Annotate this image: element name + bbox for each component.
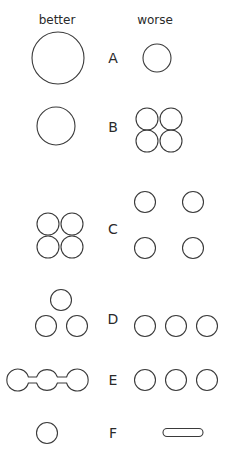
row-b: B	[37, 107, 182, 152]
row-label-d: D	[108, 311, 119, 327]
better-c-circle	[37, 236, 59, 258]
worse-c-circle	[183, 238, 204, 259]
row-label-a: A	[108, 50, 118, 66]
row-d: D	[36, 290, 218, 337]
row-label-e: E	[109, 372, 118, 388]
row-label-b: B	[108, 119, 118, 135]
worse-b-circle	[136, 130, 158, 152]
row-c: C	[37, 192, 204, 259]
better-c-circle	[61, 236, 83, 258]
row-label-c: C	[108, 221, 118, 237]
worse-b-circle	[160, 130, 182, 152]
worse-d-circle	[135, 316, 156, 337]
worse-c-circle	[135, 192, 156, 213]
better-d-circle	[67, 316, 88, 337]
worse-b-circle	[160, 108, 182, 130]
row-e: E	[7, 369, 218, 391]
worse-f-capsule	[163, 429, 203, 437]
row-label-f: F	[109, 425, 117, 441]
row-f: F	[37, 423, 204, 444]
worse-c-circle	[183, 192, 204, 213]
row-a: A	[32, 32, 171, 84]
better-b-circle	[37, 107, 75, 145]
worse-e-circle	[166, 370, 187, 391]
better-a-large-circle	[32, 32, 84, 84]
better-f-circle	[37, 423, 58, 444]
better-c-circle	[61, 213, 83, 235]
better-d-circle	[51, 290, 72, 311]
header-worse: worse	[137, 13, 173, 27]
better-d-circle	[36, 316, 57, 337]
worse-b-circle	[136, 108, 158, 130]
better-c-circle	[37, 213, 59, 235]
worse-a-small-circle	[143, 44, 171, 72]
worse-d-circle	[166, 316, 187, 337]
header-better: better	[39, 13, 76, 27]
comparison-diagram: better worse A B C D	[0, 0, 225, 452]
worse-d-circle	[197, 316, 218, 337]
worse-c-circle	[135, 238, 156, 259]
worse-e-circle	[197, 370, 218, 391]
better-e-connected-chain	[7, 369, 88, 391]
worse-e-circle	[135, 370, 156, 391]
